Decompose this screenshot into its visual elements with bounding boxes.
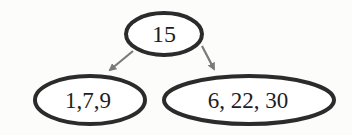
node-label-root: 15 xyxy=(152,21,176,47)
node-left: 1,7,9 xyxy=(35,76,145,124)
tree-diagram: 15 1,7,9 6, 22, 30 xyxy=(0,0,352,135)
edge-root-to-left xyxy=(110,51,133,70)
edge-root-to-right xyxy=(202,46,214,69)
arrow-icon xyxy=(110,51,133,70)
node-root: 15 xyxy=(126,13,202,55)
diagram-canvas: 15 1,7,9 6, 22, 30 xyxy=(0,0,352,135)
node-label-left: 1,7,9 xyxy=(65,88,111,113)
arrow-icon xyxy=(202,46,214,69)
node-label-right: 6, 22, 30 xyxy=(208,88,289,113)
node-right: 6, 22, 30 xyxy=(164,76,334,124)
